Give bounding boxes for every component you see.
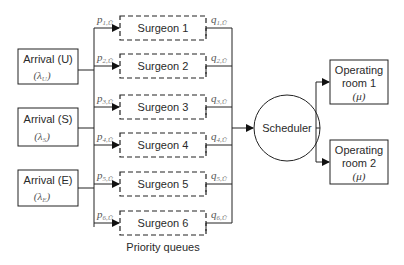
svg-text:(μ): (μ) — [353, 90, 366, 103]
svg-text:q2,Ū: q2,Ū — [211, 51, 228, 65]
svg-text:p2,Ū: p2,Ū — [96, 51, 114, 65]
svg-text:Surgeon 5: Surgeon 5 — [138, 178, 189, 190]
svg-text:room 2: room 2 — [342, 157, 376, 169]
svg-text:Operating: Operating — [335, 144, 383, 156]
svg-text:q6,Ū: q6,Ū — [211, 208, 228, 222]
arrival-box-u: Arrival (U) (λU) — [18, 49, 78, 84]
svg-text:q1,Ū: q1,Ū — [211, 13, 228, 27]
surgeon-labels: Surgeon 1 Surgeon 2 Surgeon 3 Surgeon 4 … — [138, 22, 189, 229]
arrival-connectors — [78, 28, 94, 227]
svg-text:Operating: Operating — [335, 64, 383, 76]
svg-text:Surgeon 1: Surgeon 1 — [138, 22, 189, 34]
svg-text:p5,Ū: p5,Ū — [96, 169, 114, 183]
operating-room-2: Operating room 2 (μ) — [330, 140, 388, 184]
svg-text:Surgeon 2: Surgeon 2 — [138, 60, 189, 72]
arrival-box-e: Arrival (E) (λE) — [18, 170, 78, 206]
arrival-e-rate: (λE) — [34, 190, 51, 204]
arrival-u-label: Arrival (U) — [23, 53, 73, 65]
svg-text:q4,Ū: q4,Ū — [211, 130, 228, 144]
svg-text:q3,Ū: q3,Ū — [211, 92, 228, 106]
svg-text:q5,Ū: q5,Ū — [211, 169, 228, 183]
routing-probability-labels: p1,Ū p2,Ū p3,Ū p4,Ū p5,Ū p6,Ū — [96, 13, 114, 222]
queueing-diagram: Arrival (U) (λU) Arrival (S) (λS) Arriva… — [0, 0, 404, 265]
svg-text:Surgeon 6: Surgeon 6 — [138, 217, 189, 229]
output-probability-labels: q1,Ū q2,Ū q3,Ū q4,Ū q5,Ū q6,Ū — [211, 13, 228, 222]
svg-text:room 1: room 1 — [342, 77, 376, 89]
arrival-box-s: Arrival (S) (λS) — [18, 108, 78, 146]
arrival-s-label: Arrival (S) — [24, 113, 73, 125]
svg-text:p6,Ū: p6,Ū — [96, 208, 114, 222]
svg-text:p3,Ū: p3,Ū — [96, 92, 114, 106]
scheduler-label: Scheduler — [262, 122, 312, 134]
svg-text:Surgeon 4: Surgeon 4 — [138, 139, 189, 151]
priority-queues-caption: Priority queues — [126, 241, 200, 253]
surgeon-queues — [120, 16, 206, 235]
arrival-s-rate: (λS) — [34, 130, 50, 144]
operating-room-1: Operating room 1 (μ) — [330, 60, 388, 104]
arrival-e-label: Arrival (E) — [24, 174, 73, 186]
svg-text:p1,Ū: p1,Ū — [96, 13, 114, 27]
svg-text:(μ): (μ) — [353, 170, 366, 183]
svg-text:p4,Ū: p4,Ū — [96, 130, 114, 144]
svg-text:Surgeon 3: Surgeon 3 — [138, 101, 189, 113]
scheduler-node: Scheduler — [254, 95, 320, 161]
